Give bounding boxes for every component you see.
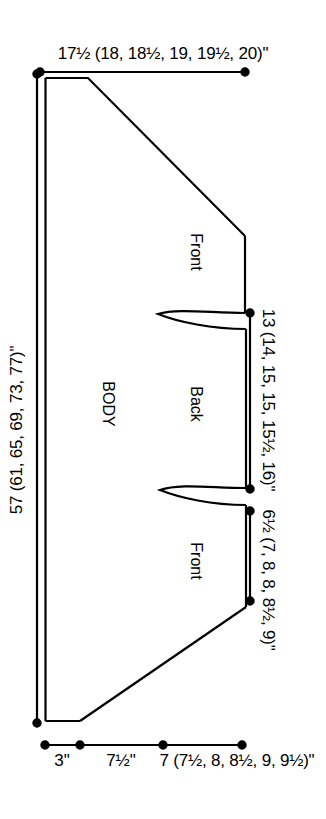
- dimension-endpoint-dot: [33, 719, 40, 726]
- top-shoulder-edge: [46, 78, 246, 236]
- dimension-label-bottom-1: 3": [54, 752, 70, 769]
- garment-outline: [46, 78, 247, 721]
- dimension-endpoint-dot: [241, 68, 248, 75]
- piece-label-body: BODY: [100, 381, 116, 426]
- piece-label-front-lower: Front: [188, 542, 204, 579]
- dimension-endpoint-dot: [41, 741, 48, 748]
- dimension-line-top: [36, 68, 248, 75]
- dimension-line-left: [33, 70, 40, 726]
- dimension-line-right-lower: [246, 507, 253, 604]
- dimension-endpoint-dot: [246, 309, 253, 316]
- dimension-label-top-width: 17½ (18, 18½, 19, 19½, 20)": [58, 45, 268, 62]
- schematic-diagram: 17½ (18, 18½, 19, 19½, 20)" 57 (61, 65, …: [0, 0, 326, 819]
- dimension-endpoint-dot: [33, 70, 40, 77]
- dimension-label-bottom-2: 7½": [106, 752, 136, 769]
- dimension-tick-dot: [76, 741, 83, 748]
- dimension-label-total-length: 57 (61, 65, 69, 73, 77)": [8, 346, 25, 515]
- dimension-endpoint-dot: [246, 507, 253, 514]
- piece-label-front-upper: Front: [188, 233, 204, 270]
- dimension-tick-dot: [159, 741, 166, 748]
- dimension-label-lower-front: 6½ (7, 8, 8, 8½, 9)": [260, 510, 277, 651]
- lower-armhole-notch: [160, 486, 246, 505]
- dimension-line-right-upper: [246, 309, 253, 492]
- bottom-diagonal-edge: [80, 607, 246, 721]
- dimension-label-back-opening: 13 (14, 15, 15, 15½, 16)": [260, 309, 277, 492]
- dimension-endpoint-dot: [238, 741, 245, 748]
- dimension-label-bottom-3: 7 (7½, 8, 8½, 9, 9½)": [160, 752, 315, 769]
- piece-label-back: Back: [188, 386, 204, 422]
- dimension-line-bottom: [41, 741, 245, 748]
- dimension-endpoint-dot: [246, 597, 253, 604]
- upper-armhole-notch: [158, 311, 246, 329]
- dimension-endpoint-dot: [246, 485, 253, 492]
